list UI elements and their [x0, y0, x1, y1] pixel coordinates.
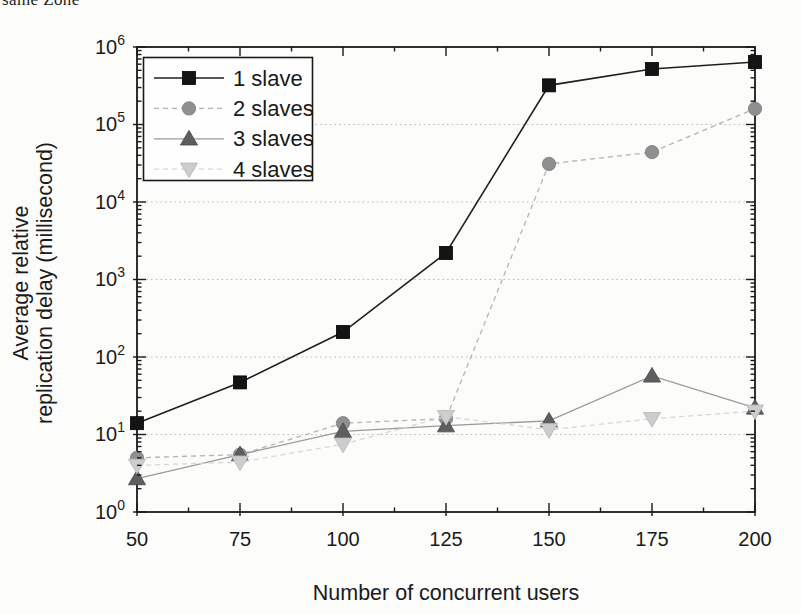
square-marker	[131, 417, 144, 430]
y-tick-label-1e1: 101	[95, 419, 125, 445]
markers	[128, 367, 763, 484]
y-axis-title-line-1: Average relative	[9, 206, 33, 361]
triangle-up-marker	[643, 367, 660, 382]
y-tick-label-1e5: 105	[95, 109, 125, 135]
figure-page: same Zone 100101102103104105106507510012…	[0, 0, 801, 614]
circle-marker	[645, 145, 658, 158]
circle-marker	[748, 102, 761, 115]
triangle-down-marker	[231, 456, 248, 471]
y-tick-label-1e3: 103	[95, 264, 125, 290]
x-tick-label-75: 75	[229, 528, 251, 550]
square-marker	[337, 326, 350, 339]
y-tick-label-1e0: 100	[95, 497, 125, 523]
y-tick-label-1e4: 104	[95, 187, 125, 213]
square-marker	[234, 376, 247, 389]
circle-marker	[542, 157, 555, 170]
circle-marker	[182, 102, 195, 115]
legend: 1 slave2 slaves3 slaves4 slaves	[144, 58, 314, 182]
triangle-down-marker	[540, 424, 557, 439]
series-3-slaves	[128, 367, 763, 484]
y-tick-label-1e6: 106	[95, 32, 125, 58]
markers	[128, 405, 763, 474]
square-marker	[440, 246, 453, 259]
series-4-slaves	[128, 405, 763, 474]
square-marker	[646, 63, 659, 76]
x-axis-title: Number of concurrent users	[313, 581, 579, 605]
square-marker	[749, 56, 762, 69]
x-tick-label-200: 200	[738, 528, 771, 550]
y-tick-label-1e2: 102	[95, 342, 125, 368]
x-tick-label-125: 125	[429, 528, 462, 550]
x-tick-label-50: 50	[126, 528, 148, 550]
y-axis-title-line-2: replication delay (millisecond)	[33, 142, 57, 424]
legend-label: 2 slaves	[233, 96, 314, 121]
legend-label: 4 slaves	[233, 157, 314, 182]
x-tick-label-175: 175	[635, 528, 668, 550]
legend-label: 1 slave	[233, 66, 303, 91]
square-marker	[183, 72, 196, 85]
square-marker	[543, 79, 556, 92]
triangle-down-marker	[128, 459, 145, 474]
legend-label: 3 slaves	[233, 126, 314, 151]
replication-delay-chart: 1001011021031041051065075100125150175200…	[0, 0, 801, 614]
x-tick-label-150: 150	[532, 528, 565, 550]
x-tick-label-100: 100	[326, 528, 359, 550]
